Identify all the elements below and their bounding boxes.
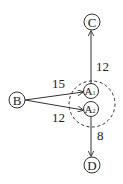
weight-a2-d: 8 xyxy=(97,128,104,143)
node-d-label: D xyxy=(87,158,96,173)
edge-b-to-a1 xyxy=(25,92,83,100)
node-b-label: B xyxy=(13,93,22,108)
node-c: C xyxy=(84,14,100,30)
node-d: D xyxy=(84,157,100,173)
edge-b-to-a2 xyxy=(25,100,83,110)
node-a1: A1 xyxy=(84,84,99,99)
weight-a1-c: 12 xyxy=(96,59,109,74)
weight-b-a1: 15 xyxy=(52,76,65,91)
diagram-canvas: C B A1 A2 D 12 15 12 8 xyxy=(0,0,123,184)
node-a2: A2 xyxy=(84,102,99,117)
node-b: B xyxy=(9,92,25,108)
node-c-label: C xyxy=(88,15,97,30)
weight-b-a2: 12 xyxy=(52,110,65,125)
